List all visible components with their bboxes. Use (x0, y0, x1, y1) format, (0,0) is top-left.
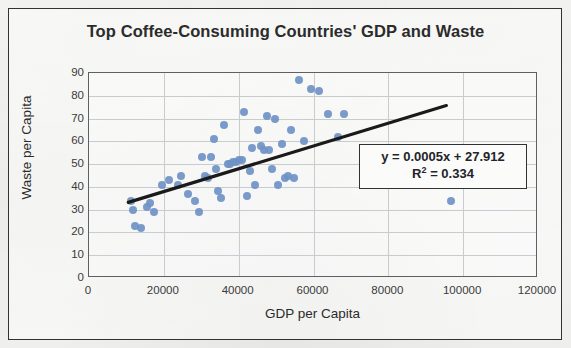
y-axis-tick-label: 40 (54, 180, 84, 192)
x-axis-tick-label: 40000 (222, 284, 254, 296)
y-axis-tick-label: 30 (54, 203, 84, 215)
chart-title: Top Coffee-Consuming Countries' GDP and … (0, 22, 571, 41)
regression-equation-line: y = 0.0005x + 27.912 (362, 149, 524, 165)
x-axis-tick-label: 100000 (443, 284, 481, 296)
y-axis-tick-label: 90 (54, 66, 84, 78)
y-axis-title: Waste per Capita (19, 58, 34, 238)
y-axis-tick-label: 80 (54, 89, 84, 101)
regression-equation-box: y = 0.0005x + 27.912 R2 = 0.334 (359, 144, 527, 189)
x-axis-tick-label: 60000 (297, 284, 329, 296)
r-squared-line: R2 = 0.334 (362, 165, 524, 183)
y-axis-tick-label: 70 (54, 112, 84, 124)
x-axis-tick-label: 0 (85, 284, 91, 296)
y-axis-tick-labels: 0102030405060708090 (48, 72, 84, 277)
x-axis-tick-label: 80000 (371, 284, 403, 296)
y-axis-tick-label: 50 (54, 157, 84, 169)
x-axis-tick-labels: 020000400006000080000100000120000 (88, 284, 537, 300)
r-squared-value: = 0.334 (427, 167, 474, 182)
chart-screenshot: Top Coffee-Consuming Countries' GDP and … (0, 0, 571, 348)
y-axis-tick-label: 60 (54, 134, 84, 146)
x-axis-tick-label: 20000 (147, 284, 179, 296)
r-squared-prefix: R (412, 167, 421, 182)
y-axis-tick-label: 0 (54, 271, 84, 283)
y-axis-tick-label: 10 (54, 248, 84, 260)
x-axis-tick-label: 120000 (518, 284, 556, 296)
x-axis-title: GDP per Capita (88, 306, 537, 321)
y-axis-tick-label: 20 (54, 225, 84, 237)
